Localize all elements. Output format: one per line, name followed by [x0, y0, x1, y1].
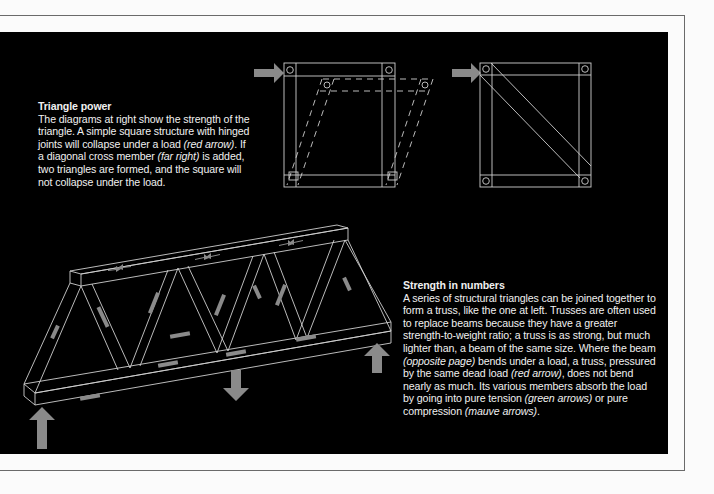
- right-arrow-icon: [452, 63, 481, 83]
- diagonally-braced-square-diagram: [452, 63, 591, 187]
- up-arrow-icon: [29, 407, 55, 449]
- triangular-truss-diagram: [24, 225, 391, 405]
- compression-arrows-icon: [108, 239, 303, 272]
- truss-force-arrows: [29, 239, 390, 449]
- up-arrow-icon: [364, 343, 390, 373]
- illustrations-layer: [0, 0, 714, 494]
- collapsing-hinged-square-diagram: [254, 63, 433, 187]
- right-arrow-icon: [254, 63, 284, 83]
- down-arrow-icon: [223, 370, 249, 401]
